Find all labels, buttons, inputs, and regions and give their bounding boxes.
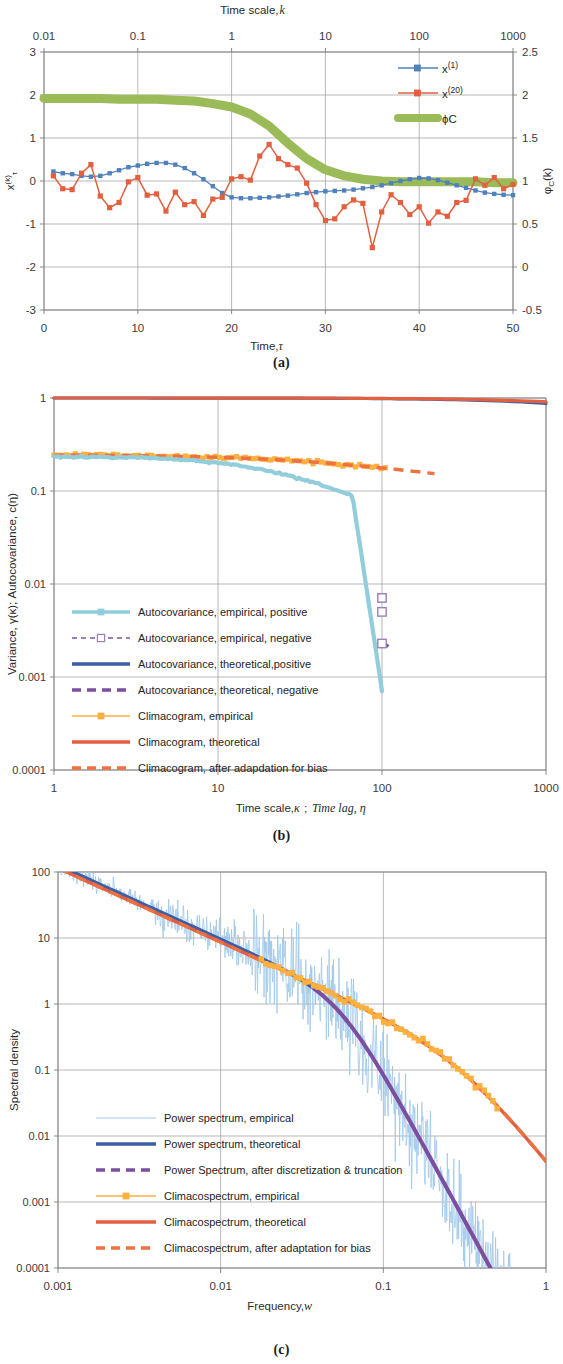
- svg-text:0.01: 0.01: [209, 1280, 231, 1292]
- svg-text:0.0001: 0.0001: [12, 764, 46, 776]
- svg-text:Autocovariance, empirical, pos: Autocovariance, empirical, positive: [138, 606, 307, 618]
- svg-text:20: 20: [225, 322, 238, 334]
- svg-text:0.1: 0.1: [375, 1280, 391, 1292]
- svg-text:0.1: 0.1: [31, 485, 46, 497]
- svg-text:Autocovariance, theoretical, n: Autocovariance, theoretical, negative: [138, 684, 318, 696]
- svg-text:Variance, γ(κ); Autocovariance: Variance, γ(κ); Autocovariance, c(η): [6, 493, 18, 675]
- svg-text:-3: -3: [26, 304, 36, 316]
- svg-text:Power spectrum, theoretical: Power spectrum, theoretical: [164, 1138, 300, 1150]
- svg-text:Time scale,: Time scale,: [236, 802, 294, 814]
- svg-text:Power Spectrum, after discreti: Power Spectrum, after discretization & t…: [164, 1164, 402, 1176]
- svg-text:Frequency,: Frequency,: [247, 1300, 304, 1312]
- svg-text:1: 1: [51, 782, 57, 794]
- panel-c: 0.00010.0010.010.11101000.0010.010.11Pow…: [0, 850, 563, 1364]
- svg-text:0.5: 0.5: [522, 218, 538, 230]
- chart-panel-a: Time scale, k0.010.11101001000-3-0.5-20-…: [0, 0, 563, 355]
- svg-text:0.01: 0.01: [25, 578, 46, 590]
- figure-root: Time scale, k0.010.11101001000-3-0.5-20-…: [0, 0, 563, 1364]
- svg-text:0.001: 0.001: [22, 1196, 50, 1208]
- svg-text:Time scale,: Time scale,: [220, 4, 278, 16]
- svg-text:-2: -2: [26, 261, 36, 273]
- svg-text:40: 40: [413, 322, 426, 334]
- svg-text:50: 50: [507, 322, 520, 334]
- panel-b-caption: (b): [0, 828, 563, 844]
- svg-text:1.5: 1.5: [522, 132, 538, 144]
- svg-text:0.1: 0.1: [35, 1064, 50, 1076]
- svg-text:10: 10: [319, 30, 332, 42]
- svg-text:-1: -1: [26, 218, 36, 230]
- svg-text:Climacospectrum, theoretical: Climacospectrum, theoretical: [164, 1216, 306, 1228]
- svg-text:Time lag, η: Time lag, η: [312, 801, 366, 815]
- svg-text:x(1): x(1): [442, 60, 458, 75]
- svg-text:Climacospectrum, after adaptat: Climacospectrum, after adaptation for bi…: [164, 1242, 371, 1254]
- svg-text:2: 2: [30, 89, 36, 101]
- svg-text:Time,: Time,: [250, 340, 278, 352]
- svg-text:ϕC: ϕC: [442, 113, 457, 125]
- svg-text:1: 1: [228, 30, 234, 42]
- svg-text:2.5: 2.5: [522, 46, 538, 58]
- svg-text:2: 2: [522, 89, 528, 101]
- svg-text:1: 1: [44, 998, 50, 1010]
- svg-text:w: w: [304, 1299, 312, 1313]
- svg-text:1: 1: [40, 392, 46, 404]
- svg-text:10: 10: [131, 322, 144, 334]
- svg-text:0.01: 0.01: [33, 30, 55, 42]
- panel-c-caption: (c): [0, 1342, 563, 1358]
- svg-text:Climacogram, after adapdation: Climacogram, after adapdation for bias: [138, 762, 328, 774]
- svg-text:φC(k): φC(k): [541, 168, 556, 195]
- svg-text:k: k: [280, 3, 286, 17]
- svg-text:100: 100: [32, 866, 50, 878]
- svg-text:0: 0: [30, 175, 36, 187]
- svg-text:0.01: 0.01: [29, 1130, 50, 1142]
- svg-text:10: 10: [38, 932, 50, 944]
- svg-text:100: 100: [372, 782, 391, 794]
- panel-b: 0.00010.0010.010.111101001000Autocovaria…: [0, 380, 563, 850]
- svg-text:Autocovariance, empirical, neg: Autocovariance, empirical, negative: [138, 632, 312, 644]
- svg-text:0.0001: 0.0001: [16, 1262, 50, 1274]
- svg-text:Climacospectrum, empirical: Climacospectrum, empirical: [164, 1190, 299, 1202]
- svg-text:x(20): x(20): [442, 85, 463, 100]
- svg-text:Autocovariance, theoretical,po: Autocovariance, theoretical,positive: [138, 658, 311, 670]
- svg-text:κ: κ: [294, 801, 300, 815]
- svg-text:3: 3: [30, 46, 36, 58]
- svg-text:1000: 1000: [533, 782, 559, 794]
- svg-text:Power spectrum, empirical: Power spectrum, empirical: [164, 1112, 294, 1124]
- svg-text:;: ;: [304, 802, 307, 814]
- svg-text:-0.5: -0.5: [522, 304, 542, 316]
- svg-text:x(k)τ: x(k)τ: [3, 171, 19, 190]
- svg-text:30: 30: [319, 322, 332, 334]
- svg-text:1: 1: [543, 1280, 549, 1292]
- panel-a-caption: (a): [0, 355, 563, 371]
- svg-text:0: 0: [522, 261, 528, 273]
- svg-text:0.001: 0.001: [18, 671, 46, 683]
- svg-text:0.001: 0.001: [44, 1280, 73, 1292]
- svg-text:0.1: 0.1: [130, 30, 146, 42]
- svg-text:Spectral density: Spectral density: [8, 1029, 20, 1111]
- svg-text:Climacogram, empirical: Climacogram, empirical: [138, 710, 253, 722]
- svg-text:100: 100: [410, 30, 429, 42]
- svg-text:10: 10: [212, 782, 225, 794]
- svg-text:1000: 1000: [500, 30, 526, 42]
- svg-text:Climacogram, theoretical: Climacogram, theoretical: [138, 736, 260, 748]
- svg-text:1: 1: [522, 175, 528, 187]
- svg-text:1: 1: [30, 132, 36, 144]
- chart-panel-b: 0.00010.0010.010.111101001000Autocovaria…: [0, 380, 563, 828]
- chart-panel-c: 0.00010.0010.010.11101000.0010.010.11Pow…: [0, 850, 563, 1342]
- svg-text:0: 0: [41, 322, 47, 334]
- panel-a: Time scale, k0.010.11101001000-3-0.5-20-…: [0, 0, 563, 380]
- svg-text:τ: τ: [279, 339, 284, 353]
